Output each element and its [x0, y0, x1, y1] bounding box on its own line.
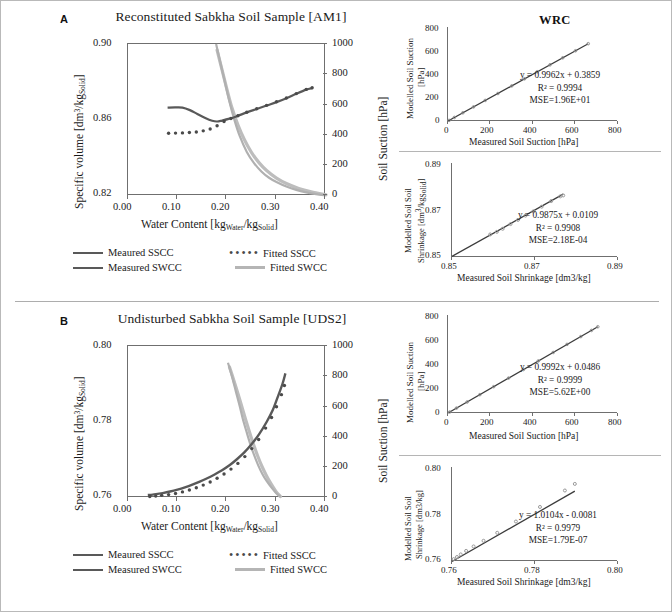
main-a-y2tick-1: 200	[332, 158, 348, 169]
wrc-a-ylabel: Modelled Soil Suction	[405, 38, 415, 119]
wrc-a-xtickmark-0	[447, 121, 448, 124]
wrc-chart-a: WRC Modelled Soil Suction [hPa] 800 600 …	[399, 9, 665, 147]
main-b-xtickmark-3	[275, 497, 276, 501]
main-b-y2tickmark-4	[323, 375, 327, 376]
ssc-b-xlabel: Measured Soil Shrinkage [dm3/kg]	[457, 577, 591, 587]
main-a-plot-area	[127, 43, 325, 195]
main-a-ylabel: Specific volume [dm3/kgSolid]	[73, 74, 87, 209]
main-a-ytick-2: 0.90	[93, 37, 111, 48]
main-a-y2tickmark-5	[323, 43, 327, 44]
main-a-xtickmark-1	[176, 195, 177, 199]
panel-b-title: Undisturbed Sabkha Soil Sample [UDS2]	[97, 311, 367, 327]
main-a-xtickmark-0	[127, 195, 128, 199]
ssc-b-ytick-2: 0.80	[425, 463, 441, 473]
main-b-plot-area	[127, 345, 325, 497]
main-b-svg	[128, 346, 326, 498]
main-a-y2tickmark-0	[323, 194, 327, 195]
ssc-a-ylabel-line1: Modelled Soil Soil	[403, 188, 413, 253]
main-b-xtick-2: 0.20	[211, 503, 229, 514]
wrc-a-xtickmark-4	[617, 121, 618, 124]
ssc-b-mse: MSE=1.79E-07	[491, 534, 625, 547]
wrc-b-ylabel: Modelled Soil Suction	[405, 342, 415, 423]
wrc-a-xtickmark-1	[489, 121, 490, 124]
wrc-ssc-divider-b	[399, 455, 661, 456]
wrc-ssc-divider-a	[399, 151, 661, 152]
legend-b: Meaured SSCC ••••• Fitted SSCC Measured …	[59, 549, 389, 583]
main-b-y2label: Soil Suction [hPa]	[377, 399, 389, 483]
panel-a: A Reconstituted Sabkha Soil Sample [AM1]…	[1, 1, 672, 301]
ssc-chart-b: SSC Modelled Soil Soil Shrinkage [dm3/kg…	[399, 461, 665, 601]
wrc-a-xtick-3: 600	[565, 125, 579, 135]
panel-divider	[15, 301, 659, 302]
ssc-a-xlabel: Measured Soil Shrinkage [dm3/kg]	[457, 273, 591, 283]
wrc-b-xtick-4: 800	[608, 417, 622, 427]
panel-letter-b: B	[60, 315, 68, 327]
legend-dots-icon: •••••	[229, 549, 259, 561]
legend-b-item-3: Fitted SWCC	[235, 564, 327, 575]
main-b-ylabel: Specific volume [dm3/kgSolid]	[73, 376, 87, 511]
main-a-svg	[128, 44, 326, 196]
wrc-a-mse: MSE=1.96E+01	[495, 94, 625, 107]
wrc-a-title: WRC	[539, 13, 571, 28]
main-a-ytick-0: 0.82	[93, 187, 111, 198]
wrc-b-mse: MSE=5.62E+00	[495, 386, 625, 399]
main-b-y2tick-1: 200	[332, 460, 348, 471]
wrc-a-xtickmark-3	[574, 121, 575, 124]
main-b-y2tickmark-5	[323, 345, 327, 346]
main-b-y2tick-0: 0	[332, 490, 337, 501]
main-a-xtick-4: 0.40	[310, 201, 328, 212]
ssc-a-equation: y = 0.9875x + 0.0109	[491, 209, 625, 222]
wrc-b-xtickmark-0	[447, 413, 448, 416]
ssc-a-ytick-0: 0.85	[425, 250, 441, 260]
panel-b: B Undisturbed Sabkha Soil Sample [UDS2] …	[1, 303, 672, 612]
legend-line-icon	[73, 569, 103, 571]
wrc-b-ytick-0: 0	[435, 407, 440, 417]
main-a-y2tickmark-3	[323, 104, 327, 105]
legend-a: Meaured SSCC ••••• Fitted SSCC Measured …	[59, 247, 389, 281]
wrc-chart-b: WRC Modelled Soil Suction [hPa] 800 600 …	[399, 311, 665, 451]
wrc-a-ytick-3: 600	[425, 46, 439, 56]
panel-a-title: Reconstituted Sabkha Soil Sample [AM1]	[101, 9, 361, 25]
main-a-xtick-0: 0.00	[113, 201, 131, 212]
figure-root: A Reconstituted Sabkha Soil Sample [AM1]…	[0, 0, 672, 612]
legend-line-icon	[73, 267, 103, 269]
ssc-b-xtickmark-0	[451, 561, 452, 564]
main-a-xtick-3: 0.30	[261, 201, 279, 212]
wrc-a-annotations: y = 0.9962x + 0.3859 R² = 0.9994 MSE=1.9…	[495, 69, 625, 107]
main-chart-a: Specific volume [dm3/kgSolid] 0.90 0.86 …	[59, 31, 389, 246]
main-a-y2tick-2: 400	[332, 128, 348, 139]
main-a-xtickmark-3	[275, 195, 276, 199]
main-b-y2tickmark-3	[323, 406, 327, 407]
wrc-a-r2: R² = 0.9994	[495, 82, 625, 95]
ssc-chart-a: SSC Modelled Soil Soil Shrinkage [dm3/kg…	[399, 157, 665, 293]
main-a-xlabel: Water Content [kgWater/kgSolid]	[141, 218, 278, 232]
ssc-b-ytick-0: 0.76	[425, 554, 441, 564]
wrc-a-xtick-1: 200	[480, 125, 494, 135]
ssc-a-ytick-2: 0.89	[425, 159, 441, 169]
wrc-b-xtickmark-3	[574, 413, 575, 416]
main-a-y2tickmark-4	[323, 73, 327, 74]
main-a-xtick-1: 0.10	[162, 201, 180, 212]
main-b-xlabel: Water Content [kgWater/kgSolid]	[141, 520, 278, 534]
wrc-b-xtickmark-2	[532, 413, 533, 416]
main-a-xtick-2: 0.20	[211, 201, 229, 212]
main-b-ytick-0: 0.76	[93, 489, 111, 500]
ssc-b-xtickmark-1	[534, 561, 535, 564]
ssc-a-xtickmark-1	[534, 257, 535, 260]
wrc-b-equation: y = 0.9992x + 0.0486	[495, 361, 625, 374]
ssc-b-xtick-0: 0.76	[441, 565, 457, 575]
main-b-ytick-1: 0.78	[93, 414, 111, 425]
wrc-b-ytick-4: 800	[425, 311, 439, 321]
main-b-y2tick-4: 800	[332, 369, 348, 380]
wrc-b-xtick-2: 400	[523, 417, 537, 427]
wrc-b-r2: R² = 0.9999	[495, 374, 625, 387]
ssc-a-r2: R² = 0.9908	[491, 222, 625, 235]
main-b-xtickmark-0	[127, 497, 128, 501]
legend-line-icon	[73, 554, 103, 556]
ssc-b-xtickmark-2	[617, 561, 618, 564]
main-a-y2tick-4: 800	[332, 67, 348, 78]
legend-dots-icon: •••••	[229, 247, 259, 259]
ssc-a-xtick-1: 0.87	[524, 261, 540, 271]
legend-a-item-1: ••••• Fitted SSCC	[229, 247, 316, 259]
main-b-xtick-4: 0.40	[310, 503, 328, 514]
